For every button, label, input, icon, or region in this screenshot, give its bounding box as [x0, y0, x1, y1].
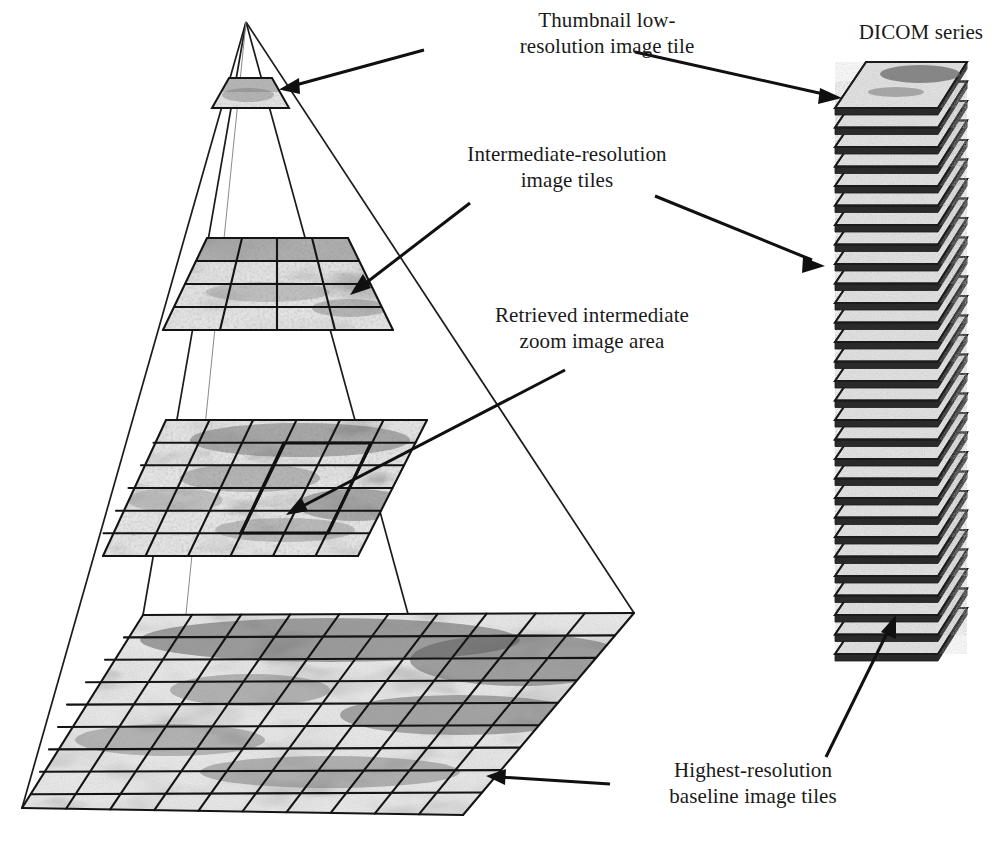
arrow-intermediate-to-level — [350, 203, 470, 295]
arrow-thumbnail-to-dicom — [635, 52, 842, 104]
arrow-thumbnail-to-tile — [279, 50, 424, 94]
diagram-svg — [0, 0, 995, 843]
dicom-top-slice-tissue — [868, 87, 924, 97]
pyramid-level-baseline — [18, 608, 643, 820]
label-thumbnail: Thumbnail low- resolution image tile — [482, 8, 732, 59]
label-retrieved: Retrieved intermediate zoom image area — [462, 303, 722, 354]
arrow-intermediate-to-dicom — [655, 196, 825, 273]
label-highest: Highest-resolution baseline image tiles — [628, 758, 878, 809]
label-dicom-series: DICOM series — [848, 20, 994, 46]
label-intermediate: Intermediate-resolution image tiles — [432, 142, 702, 193]
figure-canvas: Thumbnail low- resolution image tile Int… — [0, 0, 995, 843]
dicom-top-slice-tissue — [880, 65, 960, 83]
dicom-series-stack — [835, 62, 967, 661]
pyramid-level-retrieved — [100, 416, 435, 561]
arrow-highest-to-baseline — [486, 769, 610, 785]
